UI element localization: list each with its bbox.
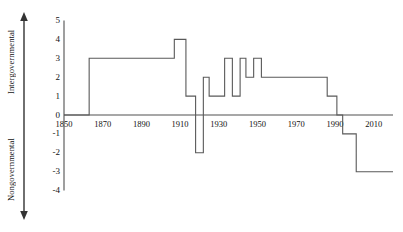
axis-lines [64,21,393,191]
data-series-line [64,39,393,171]
chart-plot-area [0,0,403,232]
chart-figure: Intergovernmental Nongovernmental 543210… [0,0,403,232]
direction-arrow [20,12,28,220]
